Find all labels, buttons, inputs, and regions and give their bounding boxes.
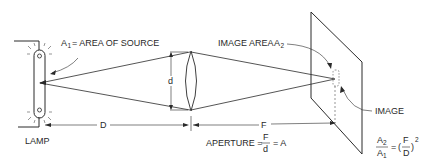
image-arrowhead-icon bbox=[340, 86, 345, 93]
lamp-label: LAMP bbox=[25, 136, 50, 146]
projected-image bbox=[333, 70, 339, 86]
lens bbox=[186, 51, 197, 111]
svg-text:2: 2 bbox=[281, 42, 285, 49]
svg-text:2: 2 bbox=[383, 139, 387, 146]
svg-text:): ) bbox=[411, 142, 414, 152]
source-leader-line bbox=[52, 58, 78, 73]
image-leader-line bbox=[342, 88, 372, 111]
lamp-bottom-lead bbox=[18, 117, 39, 127]
svg-text:A: A bbox=[61, 38, 67, 48]
svg-text:F: F bbox=[403, 135, 409, 145]
svg-text:(: ( bbox=[398, 142, 401, 152]
ray-lower-refracted bbox=[191, 79, 335, 110]
lamp-bottom-terminal bbox=[38, 108, 42, 112]
svg-text:= AREA OF SOURCE: = AREA OF SOURCE bbox=[72, 38, 159, 48]
lamp-top-terminal bbox=[38, 54, 42, 58]
distance-D-label: D bbox=[100, 120, 107, 130]
D-arrow-left-icon bbox=[45, 123, 51, 127]
aperture-formula: APERTURE = F d = A bbox=[206, 132, 286, 154]
d-arrow-down-icon bbox=[169, 105, 173, 110]
F-dimension-right bbox=[271, 123, 334, 124]
distance-F-label: F bbox=[261, 120, 267, 130]
image-area-label: IMAGE AREA A 2 bbox=[218, 38, 285, 49]
svg-text:A: A bbox=[274, 38, 280, 48]
svg-text:D: D bbox=[403, 148, 410, 158]
ray-lower-incident bbox=[40, 83, 190, 110]
svg-text:2: 2 bbox=[415, 136, 419, 143]
projection-screen bbox=[311, 12, 362, 154]
ray-origin-arrowhead-icon bbox=[39, 80, 46, 85]
source-leader-arrowhead-icon bbox=[50, 70, 56, 75]
ray-upper-refracted bbox=[191, 52, 335, 79]
image-area-leader-line bbox=[287, 44, 330, 66]
image-area-arrowhead-icon bbox=[327, 63, 332, 69]
svg-text:IMAGE AREA: IMAGE AREA bbox=[218, 38, 274, 48]
D-arrow-right-icon bbox=[183, 123, 189, 127]
svg-text:= A: = A bbox=[273, 138, 286, 148]
d-arrow-up-icon bbox=[169, 52, 173, 57]
source-area-label: A 1 = AREA OF SOURCE bbox=[61, 38, 159, 49]
svg-text:1: 1 bbox=[68, 42, 72, 49]
area-ratio-formula: A 2 A 1 = ( F D ) 2 bbox=[376, 135, 419, 159]
image-label: IMAGE bbox=[375, 106, 404, 116]
lens-diameter-label: d bbox=[168, 76, 173, 86]
optical-projection-diagram: d D F A 1 = AREA OF SOURCE IMAGE AREA A … bbox=[0, 0, 427, 168]
svg-text:1: 1 bbox=[383, 152, 387, 159]
svg-text:F: F bbox=[263, 132, 269, 142]
svg-text:APERTURE =: APERTURE = bbox=[206, 138, 263, 148]
svg-text:=: = bbox=[391, 142, 396, 152]
svg-text:d: d bbox=[263, 144, 268, 154]
lamp-top-lead bbox=[14, 41, 39, 50]
